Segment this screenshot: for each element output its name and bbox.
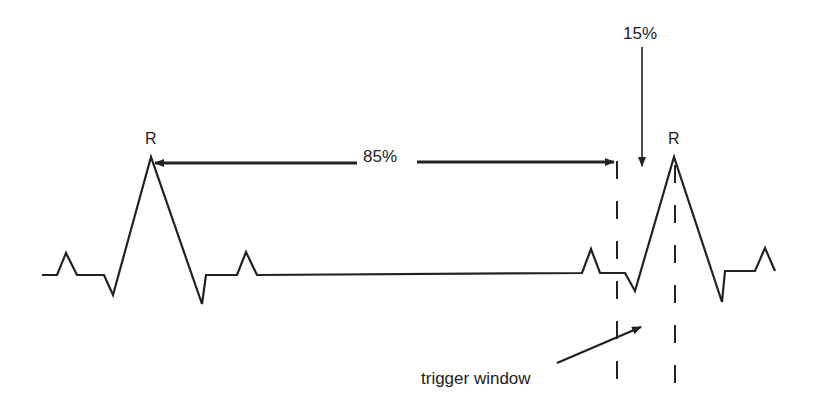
- ecg-diagram-svg: [0, 0, 813, 406]
- window-percent-label: 15%: [623, 25, 657, 42]
- trigger-window-label: trigger window: [421, 370, 531, 387]
- r-peak-2-label: R: [668, 131, 680, 147]
- ecg-waveform: [42, 157, 775, 304]
- r-peak-1-label: R: [145, 131, 157, 147]
- interval-percent-label: 85%: [363, 148, 397, 165]
- trigger-window-arrow: [557, 327, 641, 363]
